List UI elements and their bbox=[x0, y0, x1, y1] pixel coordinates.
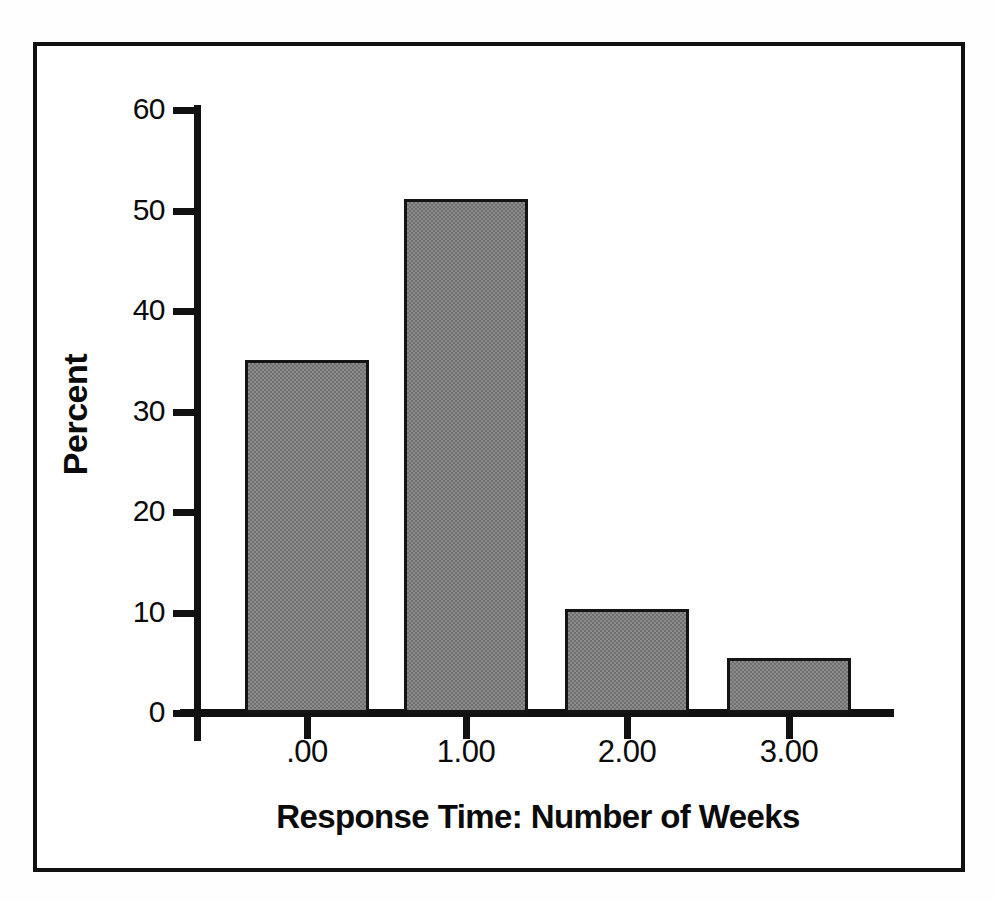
bar-1.00 bbox=[404, 199, 528, 713]
y-tick-label-wrap: 0 bbox=[60, 697, 165, 727]
x-axis-title: Response Time: Number of Weeks bbox=[180, 798, 896, 836]
x-tick-label: 2.00 bbox=[542, 736, 712, 767]
y-tick-label-wrap: 60 bbox=[60, 94, 165, 124]
y-axis-line bbox=[194, 105, 201, 741]
y-tick-30 bbox=[173, 409, 195, 416]
y-tick-label: 10 bbox=[60, 597, 165, 627]
x-tick-label: 1.00 bbox=[381, 736, 551, 767]
y-tick-50 bbox=[173, 208, 195, 215]
x-tick-label: 3.00 bbox=[704, 736, 874, 767]
y-tick-10 bbox=[173, 610, 195, 617]
chart-figure: 0102030405060 .001.002.003.00 Response T… bbox=[0, 0, 995, 902]
y-tick-label-wrap: 10 bbox=[60, 597, 165, 627]
y-tick-0 bbox=[173, 710, 195, 717]
x-tick-label: .00 bbox=[222, 736, 392, 767]
y-tick-label: 0 bbox=[60, 697, 165, 727]
y-tick-label: 50 bbox=[60, 195, 165, 225]
bar-3.00 bbox=[727, 658, 851, 713]
y-tick-20 bbox=[173, 509, 195, 516]
y-tick-40 bbox=[173, 308, 195, 315]
bar-2.00 bbox=[565, 609, 689, 713]
bar-.00 bbox=[245, 360, 369, 713]
y-tick-label-wrap: 50 bbox=[60, 195, 165, 225]
y-axis-title: Percent bbox=[56, 285, 95, 545]
y-tick-60 bbox=[173, 107, 195, 114]
y-tick-label: 60 bbox=[60, 94, 165, 124]
